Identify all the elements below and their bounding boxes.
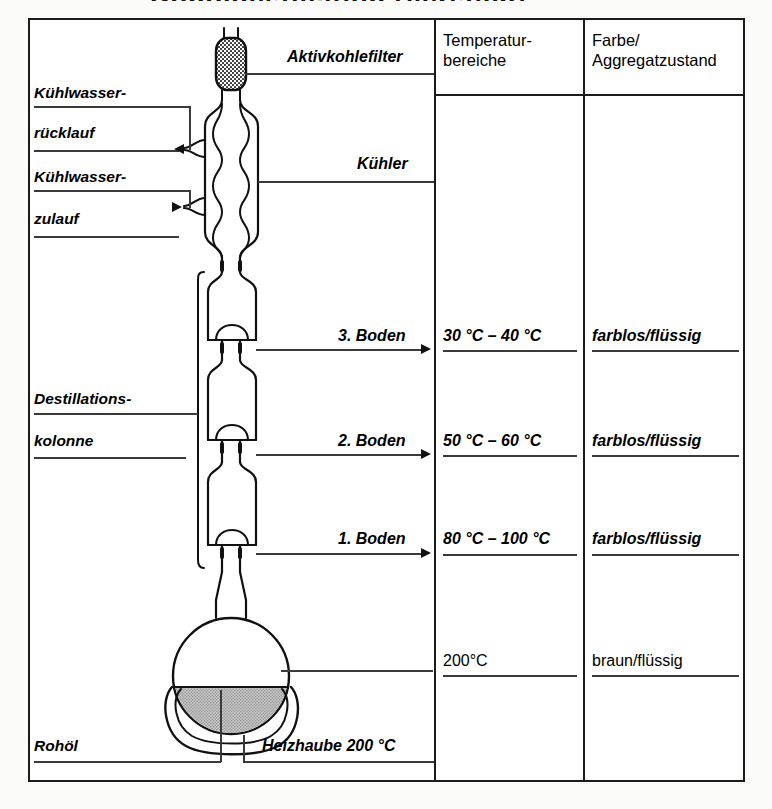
column-divider-temperature <box>434 18 436 782</box>
rule-state-boden-2 <box>592 455 739 457</box>
rule-kuehlwasser-ruecklauf-2 <box>34 150 179 152</box>
label-kuehlwasser-ruecklauf-line1: Kühlwasser- <box>34 84 126 102</box>
rule-heizhaube <box>243 761 434 763</box>
rule-kuehlwasser-ruecklauf-1 <box>34 106 190 108</box>
rule-destillationskolonne-1 <box>34 413 198 415</box>
state-boden-1: farblos/flüssig <box>592 530 701 548</box>
arrow-boden-1 <box>421 548 431 558</box>
label-boden-2: 2. Boden <box>338 432 406 450</box>
leader-boden-3 <box>256 349 423 351</box>
leader-ruecklauf-vertical <box>189 106 191 150</box>
leader-sumpf <box>281 670 433 672</box>
leader-boden-1 <box>256 553 423 555</box>
rule-kuehler <box>258 181 434 183</box>
arrow-boden-2 <box>421 449 431 459</box>
header-separator-rule <box>434 94 745 96</box>
temperature-boden-3: 30 °C – 40 °C <box>443 327 541 345</box>
rule-temperature-boden-2 <box>443 455 577 457</box>
rule-kuehlwasser-zulauf-1 <box>34 190 190 192</box>
label-kuehlwasser-zulauf-line1: Kühlwasser- <box>34 168 126 186</box>
label-boden-1: 1. Boden <box>338 530 406 548</box>
rule-state-boden-3 <box>592 350 739 352</box>
arrow-boden-3 <box>421 344 431 354</box>
label-destillationskolonne-line1: Destillations- <box>34 390 131 408</box>
rule-kuehlwasser-zulauf-2 <box>34 236 179 238</box>
label-aktivkohlefilter: Aktivkohlefilter <box>287 48 403 66</box>
rule-rohoel <box>34 761 221 763</box>
rule-destillationskolonne-2 <box>34 457 186 459</box>
leader-zulauf-vertical <box>189 190 191 208</box>
rule-temperature-sumpf <box>443 675 577 677</box>
label-boden-3: 3. Boden <box>338 327 406 345</box>
temperature-column-header: Temperatur- bereiche <box>443 30 532 70</box>
label-rohoel: Rohöl <box>34 737 78 755</box>
label-kuehlwasser-zulauf-line2: zulauf <box>34 210 79 228</box>
label-heizhaube: Heizhaube 200 °C <box>262 737 396 755</box>
state-boden-3: farblos/flüssig <box>592 327 701 345</box>
rule-state-boden-1 <box>592 554 739 556</box>
rule-aktivkohlefilter <box>245 73 434 75</box>
page-title-fragment: Rohöldestillation (Versuch) <box>150 0 527 1</box>
label-kuehlwasser-ruecklauf-line2: rücklauf <box>34 124 94 142</box>
arrow-zulauf <box>172 202 182 212</box>
temperature-boden-1: 80 °C – 100 °C <box>443 530 550 548</box>
rule-temperature-boden-3 <box>443 350 577 352</box>
column-divider-state <box>583 18 585 782</box>
rule-state-sumpf <box>592 675 739 677</box>
arrow-ruecklauf <box>174 144 184 154</box>
temperature-sumpf: 200°C <box>443 652 488 670</box>
state-boden-2: farblos/flüssig <box>592 432 701 450</box>
label-destillationskolonne-line2: kolonne <box>34 432 93 450</box>
leader-boden-2 <box>256 454 423 456</box>
diagram-page: Rohöldestillation (Versuch) Temperatur- … <box>0 0 772 809</box>
state-sumpf: braun/flüssig <box>592 652 683 670</box>
label-kuehler: Kühler <box>357 155 408 173</box>
leader-rohoel-vertical <box>220 690 222 762</box>
leader-heizhaube-stem <box>243 735 245 762</box>
rule-temperature-boden-1 <box>443 554 577 556</box>
temperature-boden-2: 50 °C – 60 °C <box>443 432 541 450</box>
state-column-header: Farbe/ Aggregatzustand <box>592 30 717 70</box>
